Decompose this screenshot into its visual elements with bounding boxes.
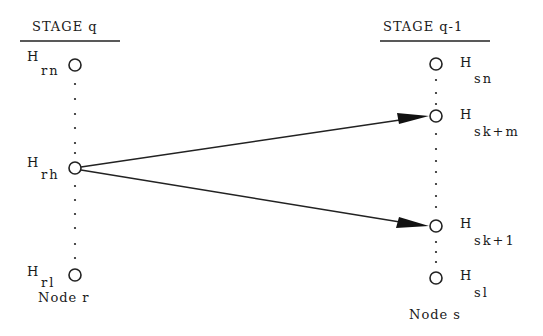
arrowhead-skm [397,113,429,124]
node-sn-circle [430,58,442,70]
stage-q-1-title: STAGE q-1 [383,19,463,34]
arrowhead-sk1 [396,217,429,228]
node-r-label: Node r [38,290,90,305]
label-sn-sub: sn [474,71,493,86]
right-dotted-line [435,79,437,263]
label-rn-H: H [27,49,39,64]
label-sk1-H: H [460,216,472,231]
node-sl-circle [430,272,442,284]
label-sl-H: H [460,268,472,283]
label-rl-sub: rl [41,275,55,290]
label-skm-sub: sk+m [474,124,520,139]
label-skm-H: H [460,107,472,122]
label-rh-H: H [27,155,39,170]
label-sn-H: H [460,55,472,70]
label-rl-H: H [27,264,39,279]
label-sl-sub: sl [474,285,489,300]
node-skm-circle [430,110,442,122]
node-sk1-circle [430,220,442,232]
label-rh-sub: rh [41,167,60,182]
node-rh-circle [69,162,81,174]
edge-rh-to-sk1 [81,170,400,222]
node-rn-circle [69,59,81,71]
diagram-canvas [0,0,543,336]
label-sk1-sub: sk+1 [474,233,516,248]
edge-rh-to-skm [81,120,400,167]
stage-q-title: STAGE q [32,19,98,34]
node-rl-circle [69,269,81,281]
label-rn-sub: rn [41,63,60,78]
node-s-label: Node s [409,307,461,322]
